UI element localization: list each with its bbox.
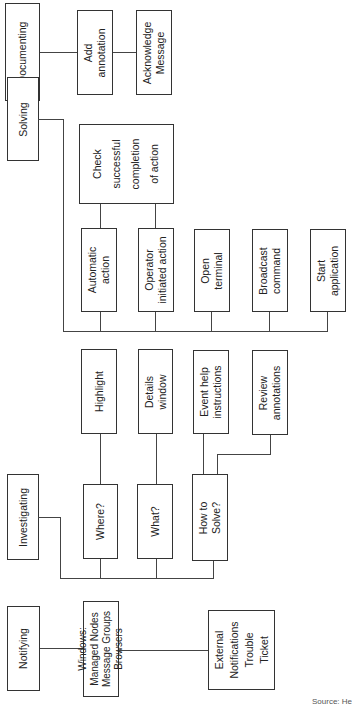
stage-investigating: Investigating xyxy=(7,474,39,560)
node-details-window: Details window xyxy=(138,349,173,434)
node-label: How to Solve? xyxy=(197,501,223,534)
connector xyxy=(38,517,60,518)
node-broadcast-command: Broadcast command xyxy=(252,229,288,312)
investigating-bus xyxy=(60,578,214,579)
node-label: Where? xyxy=(94,503,107,540)
node-windows: Windows: Managed Nodes Message Groups Br… xyxy=(83,601,119,697)
connector xyxy=(63,119,64,331)
source-caption: Source: He xyxy=(312,697,352,706)
node-add-annotation: Add annotation xyxy=(77,10,113,95)
node-label: Highlight xyxy=(93,371,106,412)
node-check-completion: Check successful completion of action xyxy=(79,124,174,204)
stage-label: Investigating xyxy=(17,488,30,547)
node-where: Where? xyxy=(83,484,118,559)
node-label: Operator initiated action xyxy=(143,236,169,303)
node-how-to-solve: How to Solve? xyxy=(192,474,228,561)
node-label: Broadcast command xyxy=(257,247,283,294)
node-automatic-action: Automatic action xyxy=(81,228,117,312)
node-open-terminal: Open terminal xyxy=(194,229,230,312)
connector xyxy=(217,454,218,474)
connector xyxy=(113,52,136,53)
node-label: External Notifications Trouble Ticket xyxy=(211,621,271,678)
node-label: Acknowledge Message xyxy=(141,21,167,83)
node-start-application: Start application xyxy=(310,229,346,312)
node-what: What? xyxy=(137,484,173,559)
connector xyxy=(327,312,328,331)
node-review-annotations: Review annotations xyxy=(252,350,288,435)
node-label: Check successful completion of action xyxy=(89,139,165,190)
solving-bus xyxy=(63,331,328,332)
node-event-help: Event help instructions xyxy=(193,350,229,434)
connector xyxy=(156,434,157,484)
connector xyxy=(217,454,271,455)
node-label: What? xyxy=(148,506,161,536)
node-external-notifications: External Notifications Trouble Ticket xyxy=(208,610,275,690)
connector xyxy=(119,650,208,651)
connector xyxy=(270,435,271,454)
connector xyxy=(203,434,204,474)
connector xyxy=(100,559,101,578)
node-label: Start application xyxy=(315,245,341,295)
connector xyxy=(155,312,156,331)
stage-label: Documenting xyxy=(16,21,29,83)
connector xyxy=(40,52,77,53)
connector xyxy=(60,517,61,578)
connector xyxy=(213,561,214,579)
node-highlight: Highlight xyxy=(81,349,117,434)
connector xyxy=(100,204,101,228)
stage-solving: Solving xyxy=(7,77,39,161)
connector xyxy=(155,204,156,228)
stage-label: Notifying xyxy=(17,628,30,669)
node-label: Details window xyxy=(143,374,169,409)
connector xyxy=(156,559,157,578)
node-acknowledge-message: Acknowledge Message xyxy=(136,10,172,95)
connector xyxy=(38,119,63,120)
node-label: Add annotation xyxy=(82,28,108,77)
node-label: Windows: Managed Nodes Message Groups Br… xyxy=(77,611,125,687)
node-label: Event help instructions xyxy=(198,365,224,418)
node-label: Review annotations xyxy=(257,365,283,419)
node-label: Open terminal xyxy=(199,252,225,289)
node-operator-action: Operator initiated action xyxy=(138,228,174,312)
connector xyxy=(269,312,270,331)
node-label: Automatic action xyxy=(86,247,112,294)
connector xyxy=(211,312,212,331)
stage-label: Solving xyxy=(17,102,30,136)
connector xyxy=(100,312,101,331)
connector xyxy=(100,434,101,484)
stage-notifying: Notifying xyxy=(7,606,40,691)
